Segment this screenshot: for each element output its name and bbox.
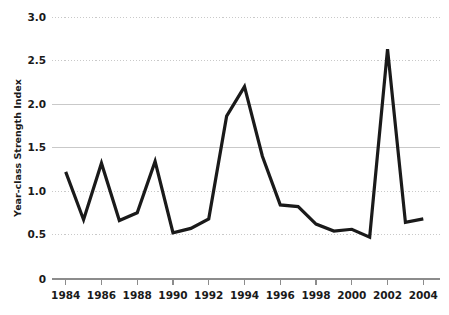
y-axis-tick-label: 1.5 (27, 141, 46, 153)
y-axis-tick-label: 2.5 (27, 54, 46, 66)
y-axis-tick-label: 3.0 (27, 11, 46, 23)
x-axis-tick-label: 1996 (266, 289, 295, 301)
x-axis-tick-labels-group: 1984198619881990199219941996199820002002… (51, 289, 438, 301)
line-chart: 0.51.01.52.02.53.0 198419861988199019921… (0, 0, 449, 315)
y-axis-tick-label: 0.5 (27, 228, 46, 240)
y-axis-tick-label: 1.0 (27, 185, 46, 197)
x-axis-tick-label: 1998 (301, 289, 330, 301)
y-axis-zero-label: 0 (39, 273, 46, 285)
y-axis-title-group: Year-class Strength Index (12, 79, 23, 218)
x-axis-tick-label: 2004 (409, 289, 438, 301)
x-axis-tick-label: 1994 (230, 289, 259, 301)
x-axis-tick-label: 2000 (337, 289, 366, 301)
y-axis-tick-label: 2.0 (27, 98, 46, 110)
x-axis-tick-label: 1992 (194, 289, 223, 301)
x-axis-tick-label: 1984 (51, 289, 80, 301)
x-axis-tick-label: 1988 (123, 289, 152, 301)
y-axis-zero-label-group: 0 (39, 273, 46, 285)
x-axis-tick-label: 1986 (87, 289, 116, 301)
chart-background (0, 0, 449, 315)
chart-container: 0.51.01.52.02.53.0 198419861988199019921… (0, 0, 449, 315)
x-axis-tick-label: 2002 (373, 289, 402, 301)
x-axis-tick-label: 1990 (158, 289, 187, 301)
y-axis-title: Year-class Strength Index (12, 79, 23, 218)
